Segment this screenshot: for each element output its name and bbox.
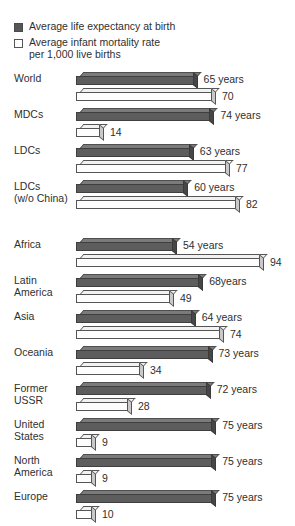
life-expectancy-value: 65 years	[204, 72, 244, 86]
bar-face-front	[76, 422, 212, 431]
bar-3d-body	[76, 470, 96, 485]
bar-face-front	[76, 402, 128, 411]
bar-3d-body	[76, 196, 240, 211]
bar-3d-body	[76, 290, 174, 305]
bar-3d-body	[76, 238, 177, 253]
infant-mortality-value: 9	[102, 435, 108, 449]
bar-face-side	[127, 398, 132, 415]
bar-face-front	[76, 76, 194, 85]
row-label: Asia	[14, 311, 76, 323]
life-expectancy-value: 75 years	[222, 490, 262, 504]
chart-row: World65 years70	[0, 72, 295, 108]
row-label: North America	[14, 455, 76, 478]
bar-face-side	[191, 310, 196, 327]
infant-mortality-value: 49	[180, 291, 192, 305]
bar-3d-body	[76, 490, 216, 505]
row-label: Oceania	[14, 347, 76, 359]
life-expectancy-bar	[76, 274, 203, 289]
row-label: World	[14, 73, 76, 85]
infant-mortality-value: 77	[236, 161, 248, 175]
bar-3d-body	[76, 346, 213, 361]
life-expectancy-value: 64 years	[202, 310, 242, 324]
legend-label-infant-mortality: Average infant mortality rate per 1,000 …	[29, 36, 160, 61]
bar-face-front	[76, 128, 100, 137]
bar-face-side	[189, 144, 194, 161]
bar-3d-body	[76, 310, 196, 325]
bar-face-front	[76, 294, 170, 303]
infant-mortality-bar	[76, 470, 96, 485]
bar-face-side	[172, 238, 177, 255]
life-expectancy-bar	[76, 108, 214, 123]
bar-face-side	[219, 326, 224, 343]
bar-3d-body	[76, 144, 194, 159]
bar-face-side	[206, 382, 211, 399]
life-expectancy-value: 68years	[209, 274, 246, 288]
life-expectancy-bar	[76, 72, 198, 87]
bar-face-front	[76, 458, 212, 467]
bar-3d-body	[76, 326, 224, 341]
infant-mortality-value: 10	[102, 507, 114, 521]
chart-row: North America75 years9	[0, 454, 295, 490]
dark-square-icon	[14, 23, 23, 32]
life-expectancy-bar	[76, 490, 216, 505]
bar-face-side	[225, 160, 230, 177]
infant-mortality-bar	[76, 434, 96, 449]
chart-row: Latin America68years49	[0, 274, 295, 310]
white-square-icon	[14, 39, 23, 48]
bar-face-front	[76, 148, 190, 157]
life-expectancy-value: 63 years	[200, 144, 240, 158]
bar-face-front	[76, 438, 92, 447]
bar-3d-body	[76, 506, 96, 521]
row-label: Africa	[14, 239, 76, 251]
life-expectancy-value: 75 years	[222, 454, 262, 468]
legend-item-life-expectancy: Average life expectancy at birth	[14, 20, 284, 33]
bar-face-front	[76, 386, 207, 395]
life-expectancy-value: 54 years	[183, 238, 223, 252]
infant-mortality-bar	[76, 362, 144, 377]
bar-3d-body	[76, 108, 214, 123]
chart-row: MDCs74 years14	[0, 108, 295, 144]
life-expectancy-value: 72 years	[217, 382, 257, 396]
bar-face-front	[76, 112, 210, 121]
bar-face-front	[76, 330, 220, 339]
infant-mortality-value: 9	[102, 471, 108, 485]
bar-face-side	[208, 346, 213, 363]
infant-mortality-bar	[76, 326, 224, 341]
bar-face-side	[139, 362, 144, 379]
infant-mortality-value: 94	[270, 255, 282, 269]
infant-mortality-value: 34	[150, 363, 162, 377]
bar-face-front	[76, 184, 184, 193]
bar-face-side	[198, 274, 203, 291]
bar-face-side	[183, 180, 188, 197]
life-expectancy-bar	[76, 238, 177, 253]
life-expectancy-value: 74 years	[220, 108, 260, 122]
chart-rows: World65 years70MDCs74 years14LDCs63 year…	[0, 72, 295, 526]
bar-3d-body	[76, 124, 104, 139]
infant-mortality-bar	[76, 506, 96, 521]
life-expectancy-bar	[76, 418, 216, 433]
bar-face-front	[76, 200, 236, 209]
chart-row: LDCs63 years77	[0, 144, 295, 180]
bar-face-front	[76, 494, 212, 503]
bar-face-front	[76, 350, 209, 359]
bar-3d-body	[76, 274, 203, 289]
infant-mortality-bar	[76, 254, 264, 269]
chart-row: Oceania73 years34	[0, 346, 295, 382]
bar-face-front	[76, 474, 92, 483]
bar-face-side	[91, 470, 96, 487]
bar-face-side	[169, 290, 174, 307]
infant-mortality-bar	[76, 124, 104, 139]
bar-3d-body	[76, 160, 230, 175]
life-expectancy-bar	[76, 310, 196, 325]
chart-row: Europe75 years10	[0, 490, 295, 526]
bar-3d-body	[76, 72, 198, 87]
bar-face-side	[193, 72, 198, 89]
bar-face-front	[76, 258, 260, 267]
life-expectancy-bar	[76, 144, 194, 159]
bar-3d-body	[76, 398, 132, 413]
bar-face-side	[91, 506, 96, 523]
bar-3d-body	[76, 454, 216, 469]
bar-3d-body	[76, 88, 216, 103]
bar-face-side	[211, 490, 216, 507]
life-expectancy-value: 75 years	[222, 418, 262, 432]
